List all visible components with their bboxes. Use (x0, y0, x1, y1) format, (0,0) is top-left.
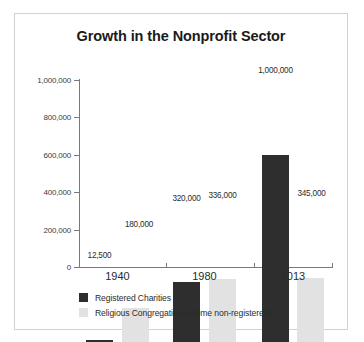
x-axis-cap-mid2 (254, 263, 255, 268)
y-tick-1000000 (74, 80, 79, 81)
y-tick-label-1000000: 1,000,000 (37, 76, 71, 85)
legend-item-religious-congregations[interactable]: Religious Congregations (some non-regist… (79, 305, 339, 320)
legend-label-religious-congregations: Religious Congregations (some non-regist… (95, 308, 271, 318)
chart-figure: Growth in the Nonprofit Sector 0 200,000… (0, 0, 364, 342)
legend-label-registered-charities: Registered Charities (95, 293, 171, 303)
value-label-2013-religious-congregations: 345,000 (286, 189, 337, 198)
category-label-2013: 2013 (262, 270, 324, 282)
value-label-2013-registered-charities: 1,000,000 (249, 66, 302, 75)
value-label-1980-religious-congregations: 336,000 (197, 191, 248, 200)
chart-title: Growth in the Nonprofit Sector (14, 28, 348, 44)
y-tick-800000 (74, 117, 79, 118)
y-tick-label-400000: 400,000 (43, 188, 71, 197)
y-tick-600000 (74, 155, 79, 156)
value-label-1940-registered-charities: 12,500 (80, 251, 119, 260)
x-axis-cap-left (79, 263, 80, 268)
category-label-1980: 1980 (173, 270, 236, 282)
y-tick-400000 (74, 192, 79, 193)
y-tick-label-200000: 200,000 (43, 226, 71, 235)
x-axis-cap-mid1 (166, 263, 167, 268)
y-tick-0 (74, 267, 79, 268)
value-label-1940-religious-congregations: 180,000 (113, 220, 165, 229)
legend-item-registered-charities[interactable]: Registered Charities (79, 290, 339, 305)
chart-legend: Registered Charities Religious Congregat… (79, 290, 339, 320)
y-tick-label-0: 0 (67, 263, 71, 272)
y-tick-label-600000: 600,000 (43, 151, 71, 160)
legend-swatch-icon-registered-charities (79, 293, 88, 302)
y-tick-label-800000: 800,000 (43, 113, 71, 122)
y-axis-line (79, 79, 80, 268)
legend-swatch-icon-religious-congregations (79, 308, 88, 317)
category-label-1940: 1940 (86, 270, 149, 282)
y-tick-200000 (74, 230, 79, 231)
